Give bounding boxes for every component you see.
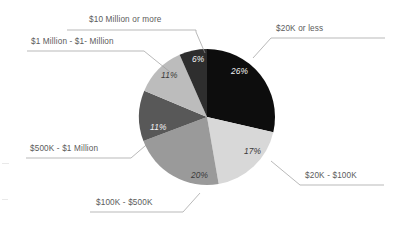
callout-label-1million-10million: $1 Million - $1- Million	[31, 37, 114, 46]
slice-value-10million-or-more: 6%	[192, 54, 204, 64]
callout-label-100k-500k: $100K - $500K	[96, 198, 153, 207]
slice-value-20k-100k: 17%	[244, 146, 261, 156]
leader-line-20k-or-less	[253, 38, 385, 58]
leader-line-1million-10million	[27, 51, 170, 72]
slice-value-1million-10million: 11%	[161, 70, 177, 80]
callout-label-500k-1million: $500K - $1 Million	[30, 144, 98, 153]
slice-value-500k-1million: 11%	[150, 122, 166, 132]
callout-label-20k-or-less: $20K or less	[276, 24, 323, 33]
slice-value-100k-500k: 20%	[191, 170, 208, 180]
pie-chart-figure: $10 Million or more $1 Million - $1- Mil…	[0, 0, 396, 230]
scan-artifact-left	[2, 163, 9, 164]
pie-chart-svg	[0, 0, 396, 230]
callout-label-10million-or-more: $10 Million or more	[89, 15, 161, 24]
slice-value-20k-or-less: 26%	[231, 66, 248, 76]
pie-slices	[139, 49, 275, 185]
callout-label-20k-100k: $20K - $100K	[305, 171, 357, 180]
scan-artifact-left-lower	[2, 199, 8, 200]
